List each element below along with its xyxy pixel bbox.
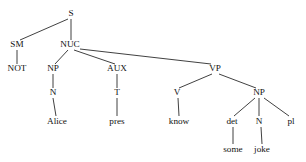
- tree-node-vp: VP: [209, 63, 221, 73]
- tree-node-joke: joke: [253, 144, 270, 154]
- tree-node-aux: AUX: [107, 63, 127, 73]
- tree-node-alice: Alice: [47, 116, 67, 126]
- tree-edge-s-to-sm: [20, 19, 68, 40]
- tree-node-np1: NP: [47, 63, 59, 73]
- tree-edge-vp-to-v: [179, 74, 212, 88]
- tree-node-t: T: [114, 87, 120, 97]
- tree-edge-np2-to-det: [234, 98, 255, 116]
- tree-node-layer: SSMNUCNOTNPAUXVPNTVNPAlicepresknowdetNpl…: [8, 8, 295, 154]
- tree-node-v: V: [174, 87, 181, 97]
- tree-node-det: det: [226, 116, 238, 126]
- tree-edge-n1-to-alice: [53, 98, 56, 116]
- tree-edge-nuc-to-vp: [80, 49, 211, 64]
- tree-canvas: SSMNUCNOTNPAUXVPNTVNPAlicepresknowdetNpl…: [0, 0, 306, 162]
- syntax-tree-diagram: SSMNUCNOTNPAUXVPNTVNPAlicepresknowdetNpl…: [0, 0, 306, 162]
- tree-edge-n2-to-joke: [261, 127, 262, 144]
- tree-edge-np2-to-pl: [264, 98, 289, 116]
- tree-node-not: NOT: [8, 63, 27, 73]
- tree-node-n2: N: [256, 116, 263, 126]
- tree-node-n1: N: [50, 87, 57, 97]
- tree-node-know: know: [169, 116, 190, 126]
- tree-node-sm: SM: [10, 39, 23, 49]
- tree-node-pres: pres: [109, 116, 125, 126]
- tree-node-s: S: [68, 8, 73, 18]
- tree-node-np2: NP: [253, 87, 265, 97]
- tree-node-nuc: NUC: [60, 39, 79, 49]
- tree-node-some: some: [223, 144, 242, 154]
- tree-edge-vp-to-np2: [219, 74, 256, 88]
- tree-edge-v-to-know: [178, 98, 179, 116]
- tree-edge-nuc-to-np1: [55, 50, 68, 64]
- tree-node-pl: pl: [287, 116, 295, 126]
